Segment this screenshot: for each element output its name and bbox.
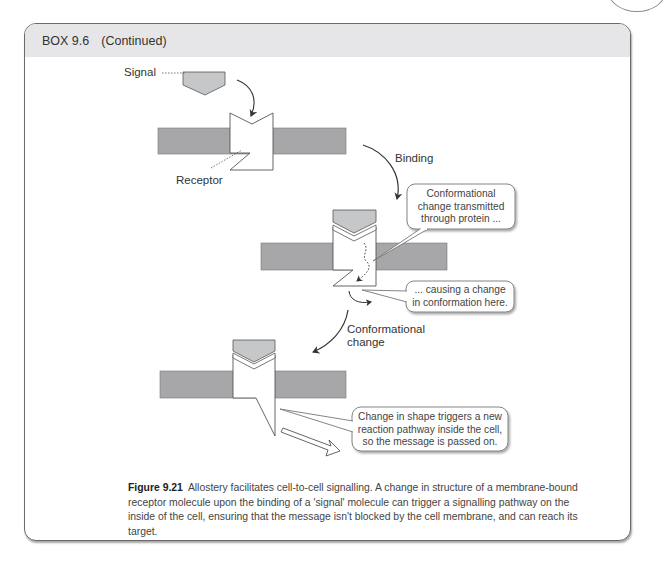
caption-text: Allostery facilitates cell-to-cell signa… (128, 482, 578, 537)
receptor-1 (230, 113, 273, 170)
receptor-label: Receptor (176, 174, 223, 187)
signal-label: Signal (124, 66, 156, 79)
callout-3-text: Change in shape triggers a new reaction … (352, 411, 508, 449)
binding-label: Binding (395, 152, 433, 165)
pathway-arrow (281, 428, 340, 456)
binding-arrow (363, 145, 398, 199)
figure-number: Figure 9.21 (128, 482, 183, 493)
conformational-change-label: Conformational change (347, 323, 425, 349)
figure-caption: Figure 9.21Allostery facilitates cell-to… (128, 481, 588, 539)
callout-2-text: ... causing a change in conformation her… (406, 284, 514, 309)
signal-molecule (183, 72, 225, 95)
approach-arrow (237, 80, 254, 116)
conformational-change-arrow (313, 310, 348, 352)
stage-1 (158, 72, 346, 170)
callout-1-text: Conformational change transmitted throug… (407, 188, 515, 226)
